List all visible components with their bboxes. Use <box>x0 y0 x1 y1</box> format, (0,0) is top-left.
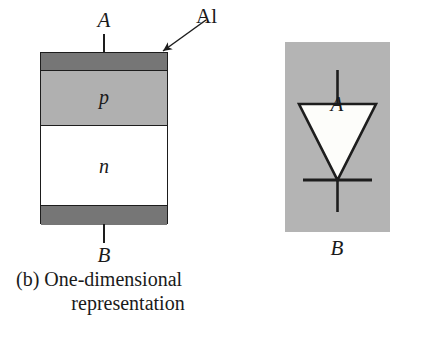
panel-diode-symbol: A B (c) Diode symbol <box>236 0 426 338</box>
panel-one-dimensional-representation: A p n B <box>0 0 236 338</box>
layer-aluminium-top <box>41 53 167 71</box>
layer-stack: p n <box>40 52 168 224</box>
layer-aluminium-bottom <box>41 206 167 225</box>
layer-label-p: p <box>41 87 167 107</box>
layer-n-region: n <box>41 126 167 206</box>
terminal-label-a-panel-b: A <box>84 10 124 31</box>
caption-panel-b-line1: (b) One-dimensional <box>16 268 226 292</box>
diode-symbol-icon <box>285 42 390 232</box>
layer-p-region: p <box>41 71 167 126</box>
caption-panel-b-line2: representation <box>16 292 226 316</box>
terminal-label-b-panel-c: B <box>317 238 357 259</box>
terminal-label-a-panel-c: A <box>317 94 357 115</box>
top-lead-line-panel-b <box>103 34 105 53</box>
diode-symbol-background: A B <box>285 42 390 232</box>
figure-root: A p n B <box>0 0 426 338</box>
bottom-lead-line-panel-b <box>103 224 105 243</box>
terminal-label-b-panel-b: B <box>84 245 124 266</box>
layer-label-n: n <box>41 156 167 176</box>
al-callout-label: Al <box>196 6 217 27</box>
caption-panel-b: (b) One-dimensional representation <box>16 268 226 315</box>
